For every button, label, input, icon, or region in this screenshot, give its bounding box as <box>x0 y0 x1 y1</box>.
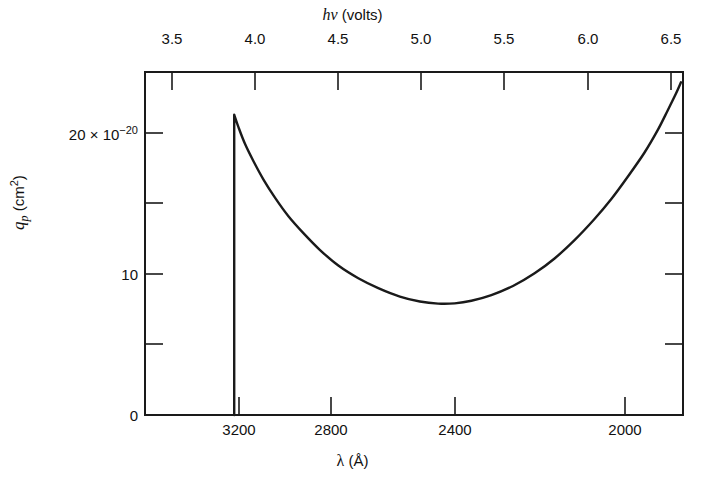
figure-container: hν (volts) λ (Å) qp (cm2) 3.5 4.0 4.5 5.… <box>0 0 705 484</box>
top-axis-ticks <box>172 72 671 90</box>
left-axis-ticks <box>145 133 163 344</box>
plot-area <box>0 0 705 484</box>
right-axis-ticks <box>665 133 683 344</box>
data-curve-qp <box>234 82 681 415</box>
axis-frame <box>145 72 683 415</box>
bottom-axis-ticks <box>239 397 625 415</box>
